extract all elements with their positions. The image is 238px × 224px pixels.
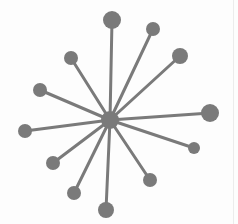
spoke-line: [110, 56, 180, 120]
leaf-node: [98, 202, 114, 218]
spoke-line: [110, 120, 194, 148]
spoke-line: [106, 120, 110, 210]
leaf-node: [146, 22, 160, 36]
leaf-node: [18, 124, 32, 138]
spoke-line: [110, 113, 210, 120]
leaf-node: [103, 11, 121, 29]
spoke-line: [74, 120, 110, 193]
diagram-canvas: [0, 0, 238, 224]
leaf-node: [33, 83, 47, 97]
leaf-node: [201, 104, 219, 122]
leaf-node: [172, 48, 188, 64]
leaf-node: [188, 142, 200, 154]
leaf-node: [143, 173, 157, 187]
hub-node: [101, 111, 119, 129]
leaf-node: [46, 156, 60, 170]
leaf-node: [64, 51, 78, 65]
spoke-line: [110, 120, 150, 180]
spoke-line: [110, 20, 112, 120]
spoke-line: [110, 29, 153, 120]
hub-and-spoke-diagram: [0, 0, 238, 224]
leaf-node: [67, 186, 81, 200]
